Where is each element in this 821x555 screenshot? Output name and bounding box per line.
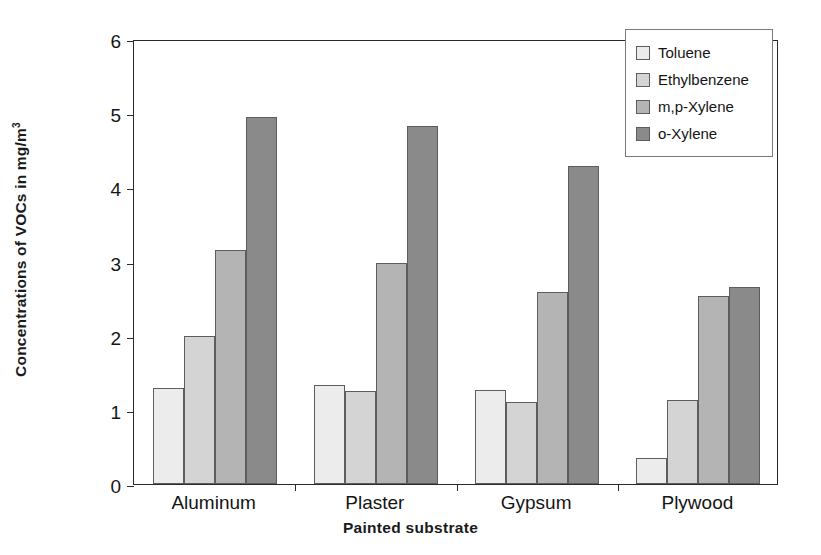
legend-item-toluene[interactable]: Toluene [636,39,764,66]
y-axis-label: Concentrations of VOCs in mg/m3 [10,123,29,378]
legend-item-m-p-xylene[interactable]: m,p-Xylene [636,93,764,120]
y-axis-tick-label: 5 [110,106,121,125]
legend-swatch-icon [636,100,650,114]
bar-o-xylene-aluminum [246,117,277,484]
y-axis-tick-label: 1 [110,402,121,421]
y-axis-tick [127,41,134,42]
bar-o-xylene-plywood [729,287,760,484]
x-axis-tick [457,484,458,491]
legend-swatch-icon [636,127,650,141]
legend-label: Toluene [658,44,711,61]
legend-item-ethylbenzene[interactable]: Ethylbenzene [636,66,764,93]
bar-ethylbenzene-plaster [345,391,376,484]
x-axis-label: Painted substrate [0,519,821,537]
y-axis-tick [127,338,134,339]
bar-ethylbenzene-aluminum [184,336,215,484]
bar-toluene-gypsum [475,390,506,484]
legend-item-o-xylene[interactable]: o-Xylene [636,120,764,147]
y-axis-tick-label: 0 [110,477,121,496]
bar-m-p-xylene-gypsum [537,292,568,484]
bar-toluene-plywood [636,458,667,484]
bar-toluene-aluminum [153,388,184,484]
legend-label: m,p-Xylene [658,98,734,115]
y-axis-tick-label: 3 [110,254,121,273]
category-label-plywood: Plywood [661,492,733,514]
y-axis-label-superscript: 3 [10,123,21,129]
y-axis-label-wrapper: Concentrations of VOCs in mg/m3 [0,0,40,500]
category-label-gypsum: Gypsum [501,492,572,514]
category-label-plaster: Plaster [345,492,404,514]
bar-ethylbenzene-plywood [667,400,698,484]
x-axis-tick [295,484,296,491]
y-axis-label-text: Concentrations of VOCs in mg/m [12,128,29,377]
y-axis-tick-label: 6 [110,32,121,51]
bar-m-p-xylene-plaster [376,263,407,484]
bar-m-p-xylene-aluminum [215,250,246,484]
category-label-aluminum: Aluminum [171,492,255,514]
legend-swatch-icon [636,73,650,87]
x-axis-tick [618,484,619,491]
bar-m-p-xylene-plywood [698,296,729,484]
legend-label: Ethylbenzene [658,71,749,88]
legend-label: o-Xylene [658,125,717,142]
chart-legend: TolueneEthylbenzenem,p-Xyleneo-Xylene [625,29,773,157]
bar-ethylbenzene-gypsum [506,402,537,484]
y-axis-tick [127,115,134,116]
y-axis-tick [127,412,134,413]
y-axis-tick-label: 4 [110,180,121,199]
bar-toluene-plaster [314,385,345,484]
bar-o-xylene-plaster [407,126,438,484]
bar-o-xylene-gypsum [568,166,599,484]
legend-swatch-icon [636,46,650,60]
y-axis-tick [127,189,134,190]
y-axis-tick [127,264,134,265]
chart-figure: Concentrations of VOCs in mg/m3 0123456 … [0,0,821,555]
y-axis-tick [127,486,134,487]
y-axis-tick-label: 2 [110,328,121,347]
